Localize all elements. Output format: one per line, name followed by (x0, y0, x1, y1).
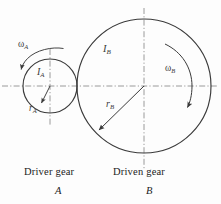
driven-gear-letter: B (146, 185, 152, 196)
centerlines-group (2, 8, 219, 170)
gear-b-radius-subscript: B (110, 103, 114, 110)
gear-b-omega-label: ωB (165, 64, 175, 74)
gear-a-radius-subscript: A (33, 107, 37, 114)
gear-b-inertia-subscript: B (107, 48, 111, 56)
gear-diagram-figure: ωA IA rA IB ωB rB Driver gear A Driven g… (0, 0, 221, 204)
gear-a-inertia-subscript: A (40, 71, 44, 78)
gear-a-radius-arrow (42, 86, 51, 103)
driver-gear-caption: Driver gear (24, 166, 74, 177)
driven-gear-caption: Driven gear (113, 166, 165, 177)
gear-b-omega-subscript: B (171, 67, 175, 74)
gear-a-omega-subscript: A (24, 43, 28, 50)
gear-a-omega-label: ωA (18, 40, 28, 50)
gear-b-radius-label: rB (106, 99, 114, 110)
driver-gear-letter: A (55, 185, 61, 196)
gear-b-omega-arc (165, 44, 192, 108)
gear-b-inertia-label: IB (103, 44, 111, 56)
gear-a-inertia-label: IA (37, 67, 45, 78)
gear-a-radius-label: rA (29, 104, 37, 114)
